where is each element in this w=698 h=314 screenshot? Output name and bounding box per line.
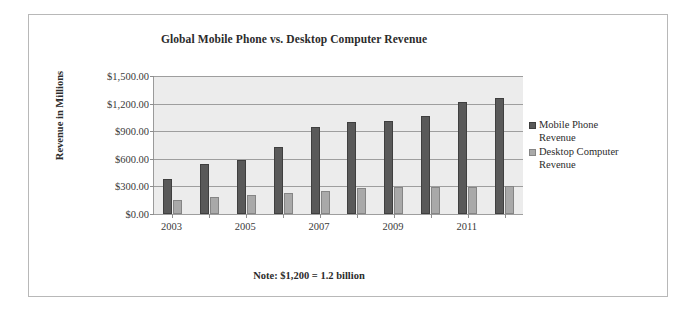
bar-group	[302, 76, 339, 214]
bar-group	[191, 76, 228, 214]
x-axis-tick-label	[485, 221, 522, 232]
bar	[468, 187, 477, 214]
bar	[431, 187, 440, 214]
bar	[311, 127, 320, 214]
x-axis-tick-mark	[246, 214, 247, 218]
y-axis-tick-mark	[150, 131, 154, 132]
y-axis-tick-mark	[150, 186, 154, 187]
legend-label-mobile: Mobile PhoneRevenue	[539, 119, 598, 144]
legend-item-desktop-computer-revenue: Desktop ComputerRevenue	[529, 146, 664, 171]
bar	[394, 187, 403, 214]
y-axis-tick-label: $1,500.00	[73, 71, 149, 82]
x-axis-tick-label: 2005	[227, 221, 264, 232]
bar-group	[154, 76, 191, 214]
bar	[274, 147, 283, 214]
x-axis-tick-mark	[431, 214, 432, 218]
bar	[357, 188, 366, 214]
y-axis-tick-mark	[150, 76, 154, 77]
bar	[321, 191, 330, 214]
bar	[173, 200, 182, 214]
legend-item-mobile-phone-revenue: Mobile PhoneRevenue	[529, 119, 664, 144]
chart-legend: Mobile PhoneRevenue Desktop ComputerReve…	[529, 119, 664, 173]
bar-group	[339, 76, 376, 214]
y-axis-tick-label: $0.00	[73, 209, 149, 220]
x-axis-tick-mark	[357, 214, 358, 218]
x-axis-tick-label	[338, 221, 375, 232]
bar	[495, 98, 504, 214]
x-axis-tick-mark	[283, 214, 284, 218]
y-axis-tick-label: $300.00	[73, 181, 149, 192]
x-axis-tick-mark	[468, 214, 469, 218]
x-axis-tick-label: 2003	[153, 221, 190, 232]
x-axis-tick-mark	[320, 214, 321, 218]
chart-title: Global Mobile Phone vs. Desktop Computer…	[29, 33, 559, 45]
x-axis-tick-label: 2009	[374, 221, 411, 232]
bar	[200, 164, 209, 214]
bar	[458, 102, 467, 214]
y-axis-tick-labels: $1,500.00$1,200.00$900.00$600.00$300.00$…	[69, 76, 149, 214]
x-axis-tick-label	[264, 221, 301, 232]
bar	[247, 195, 256, 214]
bar-group	[449, 76, 486, 214]
x-axis-tick-mark	[172, 214, 173, 218]
plot-area	[153, 76, 523, 215]
y-axis-tick-mark	[150, 214, 154, 215]
y-axis-tick-mark	[150, 104, 154, 105]
legend-swatch-icon-desktop	[529, 149, 536, 156]
y-axis-title: Revenue in Millions	[54, 46, 65, 186]
x-axis-tick-label	[190, 221, 227, 232]
bar-group	[412, 76, 449, 214]
bar	[421, 116, 430, 214]
y-axis-tick-label: $1,200.00	[73, 98, 149, 109]
x-axis-tick-labels: 20032005200720092011	[153, 221, 522, 232]
bar	[237, 160, 246, 214]
bar	[505, 186, 514, 214]
bar	[210, 197, 219, 214]
y-axis-tick-label: $600.00	[73, 153, 149, 164]
bar-group	[375, 76, 412, 214]
bar-series-container	[154, 76, 523, 214]
x-axis-tick-mark	[394, 214, 395, 218]
chart-note: Note: $1,200 = 1.2 billion	[29, 270, 589, 281]
chart-frame: Global Mobile Phone vs. Desktop Computer…	[28, 14, 668, 297]
bar	[347, 122, 356, 214]
bar	[284, 193, 293, 214]
x-axis-tick-mark	[505, 214, 506, 218]
y-axis-tick-mark	[150, 159, 154, 160]
x-axis-tick-label: 2011	[448, 221, 485, 232]
legend-label-desktop: Desktop ComputerRevenue	[539, 146, 619, 171]
legend-swatch-icon-mobile	[529, 122, 536, 129]
x-axis-tick-label	[411, 221, 448, 232]
y-axis-tick-label: $900.00	[73, 126, 149, 137]
x-axis-tick-label: 2007	[301, 221, 338, 232]
bar	[163, 179, 172, 214]
bar-group	[486, 76, 523, 214]
bar-group	[265, 76, 302, 214]
x-axis-tick-mark	[209, 214, 210, 218]
bar	[384, 121, 393, 214]
bar-group	[228, 76, 265, 214]
